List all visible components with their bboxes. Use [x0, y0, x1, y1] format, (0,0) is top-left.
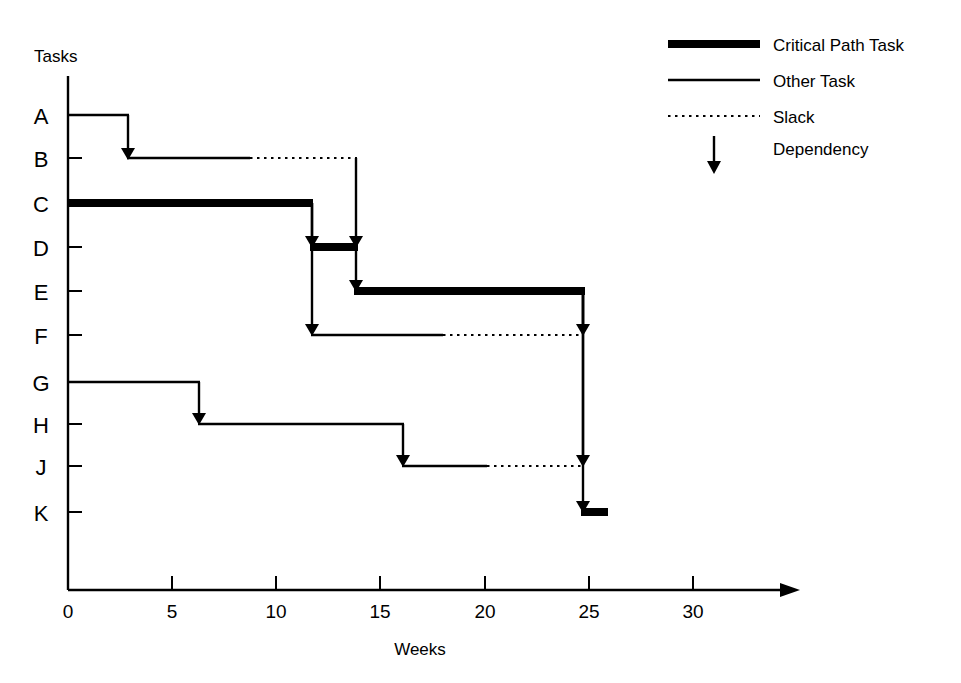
x-tick-label-0: 0 — [63, 601, 74, 622]
dependency-h-to-j — [396, 424, 410, 467]
dependency-c-to-f — [305, 203, 319, 336]
legend-item-slack[interactable]: Slack — [668, 108, 815, 127]
legend-label-other-task: Other Task — [773, 72, 855, 91]
legend-label-dependency: Dependency — [773, 140, 869, 159]
task-label-j: J — [36, 455, 47, 480]
dependency-b-to-d — [349, 158, 363, 248]
critical-path-chart: Tasks A B C D E — [0, 0, 961, 683]
task-label-f: F — [34, 324, 47, 349]
x-tick-label-25: 25 — [578, 601, 599, 622]
legend-item-critical-path-task[interactable]: Critical Path Task — [668, 36, 905, 55]
x-tick-labels: 0 5 10 15 20 25 30 — [63, 601, 704, 622]
task-label-a: A — [34, 104, 49, 129]
dependency-g-to-h — [192, 382, 206, 425]
x-axis-arrow-icon — [780, 583, 800, 597]
legend-label-critical-path-task: Critical Path Task — [773, 36, 905, 55]
legend-item-dependency[interactable]: Dependency — [707, 136, 869, 174]
y-tick-marks — [68, 115, 82, 512]
dependency-a-to-b — [121, 115, 135, 160]
x-tick-marks — [68, 576, 693, 590]
y-axis-title: Tasks — [34, 47, 77, 66]
task-label-g: G — [32, 371, 49, 396]
task-label-h: H — [33, 413, 49, 438]
task-label-c: C — [33, 192, 49, 217]
task-bars — [68, 115, 608, 512]
x-tick-label-5: 5 — [167, 601, 178, 622]
x-axis-title: Weeks — [394, 640, 446, 659]
task-label-b: B — [34, 147, 49, 172]
legend-swatch-dependency-arrow-icon — [707, 136, 721, 174]
x-tick-label-30: 30 — [682, 601, 703, 622]
legend-item-other-task[interactable]: Other Task — [668, 72, 855, 91]
x-tick-label-10: 10 — [265, 601, 286, 622]
legend: Critical Path Task Other Task Slack Depe… — [668, 36, 905, 174]
x-tick-label-15: 15 — [369, 601, 390, 622]
axis-group — [68, 76, 800, 597]
legend-label-slack: Slack — [773, 108, 815, 127]
gantt-chart-page: Tasks A B C D E — [0, 0, 961, 683]
task-label-d: D — [33, 236, 49, 261]
task-label-e: E — [34, 280, 49, 305]
task-labels: A B C D E F G H J K — [32, 104, 49, 526]
task-label-k: K — [34, 501, 49, 526]
dependency-d-to-e — [349, 247, 363, 292]
x-tick-label-20: 20 — [474, 601, 495, 622]
dependency-connectors — [121, 115, 590, 513]
